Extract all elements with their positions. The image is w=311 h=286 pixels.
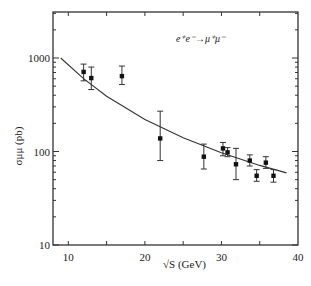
data-point [234,162,238,166]
data-point [248,158,252,162]
data-point [202,154,206,158]
chart-plot: 10203040101001000 [0,0,311,286]
x-tick-label: 20 [139,251,151,263]
theory-curve [61,58,287,173]
data-point [271,174,275,178]
data-point [120,74,124,78]
data-point [264,160,268,164]
data-point [254,174,258,178]
y-tick-label: 100 [34,146,51,158]
x-axis-label: √S (GeV) [163,258,206,270]
annotation-label: e⁺e⁻→μ⁺μ⁻ [176,33,225,44]
data-point [89,76,93,80]
data-point [158,136,162,140]
y-axis-label: σμμ (pb) [12,116,24,176]
y-tick-label: 1000 [28,52,51,64]
x-tick-label: 40 [293,251,305,263]
y-tick-label: 10 [39,239,51,251]
plot-frame [53,12,298,245]
data-point [225,150,229,154]
data-point [221,146,225,150]
data-point [81,70,85,74]
x-tick-label: 10 [63,251,75,263]
x-tick-label: 30 [216,251,228,263]
